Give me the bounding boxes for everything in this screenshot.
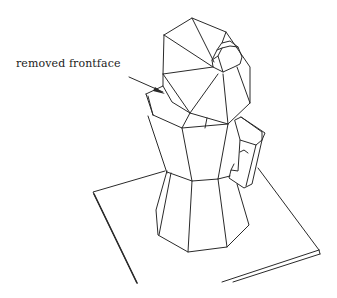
handle — [229, 117, 265, 188]
base-plate — [93, 168, 320, 283]
removed-frontface — [146, 74, 228, 128]
upper-body — [148, 116, 230, 181]
lid — [163, 18, 250, 124]
annotation-arrow — [129, 77, 165, 94]
moka-pot-wireframe — [0, 0, 337, 298]
figure-canvas: removed frontface — [0, 0, 337, 298]
lower-body — [156, 171, 249, 252]
